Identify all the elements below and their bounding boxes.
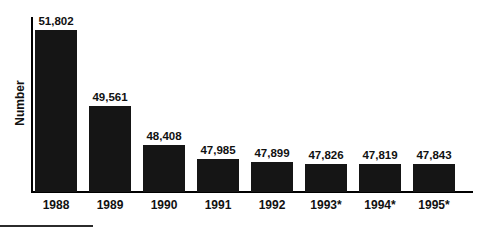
bar-group[interactable]: 49,561 (89, 17, 131, 192)
bar-rect[interactable] (359, 164, 401, 192)
bar-rect[interactable] (305, 164, 347, 192)
bar-value-label: 47,985 (188, 144, 248, 156)
bar-value-label: 47,826 (296, 149, 356, 161)
y-axis-line (31, 17, 33, 193)
bar-rect[interactable] (35, 30, 77, 192)
bar-group[interactable]: 47,843 (413, 17, 455, 192)
footnote-divider-rule (0, 225, 93, 227)
bar-rect[interactable] (197, 159, 239, 192)
bar-chart-figure: Number 51,80249,56148,40847,98547,89947,… (0, 0, 488, 241)
bar-value-label: 47,899 (242, 147, 302, 159)
bar-value-label: 47,819 (350, 149, 410, 161)
x-tick-label: 1989 (83, 198, 137, 212)
bar-rect[interactable] (251, 162, 293, 192)
y-axis-label: Number (13, 63, 27, 143)
plot-area: 51,80249,56148,40847,98547,89947,82647,8… (35, 17, 473, 192)
x-tick-label: 1991 (191, 198, 245, 212)
bar-value-label: 49,561 (80, 91, 140, 103)
bar-rect[interactable] (413, 164, 455, 192)
bar-group[interactable]: 47,819 (359, 17, 401, 192)
bar-group[interactable]: 47,985 (197, 17, 239, 192)
bar-value-label: 47,843 (404, 149, 464, 161)
bar-rect[interactable] (89, 106, 131, 192)
bar-group[interactable]: 48,408 (143, 17, 185, 192)
x-tick-label: 1995* (407, 198, 461, 212)
bar-group[interactable]: 51,802 (35, 17, 77, 192)
x-axis-tick-labels: 198819891990199119921993*1994*1995* (35, 198, 473, 218)
bar-group[interactable]: 47,899 (251, 17, 293, 192)
x-tick-label: 1988 (29, 198, 83, 212)
x-tick-label: 1992 (245, 198, 299, 212)
x-tick-label: 1990 (137, 198, 191, 212)
x-tick-label: 1993* (299, 198, 353, 212)
bar-group[interactable]: 47,826 (305, 17, 347, 192)
bar-rect[interactable] (143, 145, 185, 192)
bar-value-label: 48,408 (134, 130, 194, 142)
x-tick-label: 1994* (353, 198, 407, 212)
bar-value-label: 51,802 (26, 15, 86, 27)
